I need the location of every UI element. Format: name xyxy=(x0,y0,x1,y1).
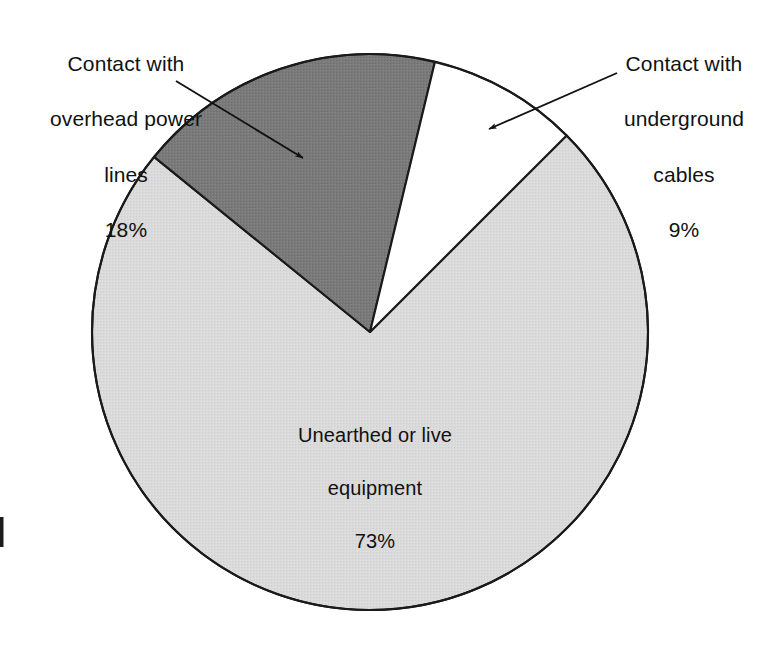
pie-chart-canvas xyxy=(0,0,773,660)
pie-chart-figure: Contact with overhead power lines 18% Co… xyxy=(0,0,773,660)
page-edge-artifact xyxy=(0,517,4,547)
